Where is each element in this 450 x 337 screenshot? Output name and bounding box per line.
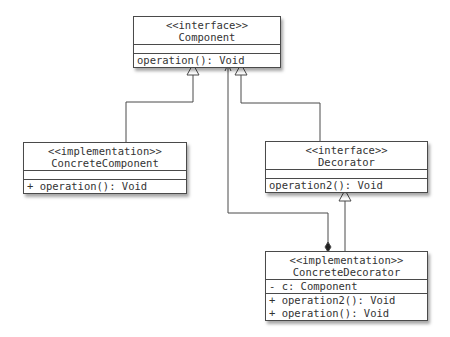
operation-item: + operation(): Void — [27, 180, 183, 193]
operations-section: operation2(): Void — [266, 178, 427, 192]
attributes-section — [266, 169, 427, 178]
operations-section: + operation2(): Void + operation(): Void — [266, 293, 427, 320]
operation-item: operation(): Void — [137, 54, 277, 67]
class-decorator[interactable]: <<interface>> Decorator operation2(): Vo… — [265, 141, 428, 193]
class-name: Component — [134, 31, 280, 43]
generalization-concretedecorator-to-decorator — [339, 190, 351, 251]
attribute-item: - c: Component — [269, 280, 424, 293]
operation-item: + operation(): Void — [269, 307, 424, 320]
attributes-section: - c: Component — [266, 279, 427, 293]
class-name: Decorator — [266, 156, 427, 168]
class-concrete-decorator[interactable]: <<implementation>> ConcreteDecorator - c… — [265, 251, 428, 321]
class-header: <<implementation>> ConcreteDecorator — [266, 252, 427, 279]
class-name: ConcreteDecorator — [266, 266, 427, 278]
class-component[interactable]: <<interface>> Component operation(): Voi… — [133, 16, 281, 68]
generalization-concretecomponent-to-component — [126, 64, 199, 143]
operations-section: operation(): Void — [134, 53, 280, 67]
class-name: ConcreteComponent — [24, 157, 186, 169]
class-stereotype: <<implementation>> — [266, 254, 427, 266]
attributes-section — [24, 170, 186, 179]
class-stereotype: <<interface>> — [134, 19, 280, 31]
uml-diagram-canvas: <<interface>> Component operation(): Voi… — [0, 0, 450, 337]
class-header: <<interface>> Decorator — [266, 142, 427, 169]
operation-item: + operation2(): Void — [269, 294, 424, 307]
class-header: <<interface>> Component — [134, 17, 280, 44]
class-stereotype: <<interface>> — [266, 144, 427, 156]
operation-item: operation2(): Void — [269, 179, 424, 192]
operations-section: + operation(): Void — [24, 179, 186, 193]
generalization-decorator-to-component — [235, 64, 320, 141]
class-concrete-component[interactable]: <<implementation>> ConcreteComponent + o… — [23, 142, 187, 194]
class-header: <<implementation>> ConcreteComponent — [24, 143, 186, 170]
attributes-section — [134, 44, 280, 53]
class-stereotype: <<implementation>> — [24, 145, 186, 157]
